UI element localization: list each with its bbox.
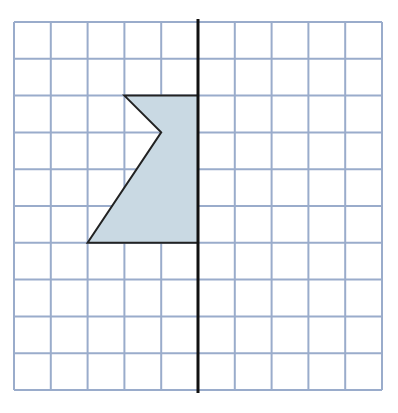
reflection-diagram [0, 0, 398, 413]
